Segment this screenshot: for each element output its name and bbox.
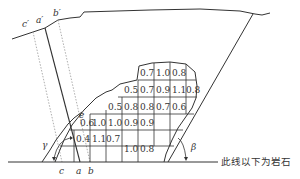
label-c: c <box>59 166 64 176</box>
beta-arc <box>178 138 186 158</box>
svg-text:1.0: 1.0 <box>92 118 107 128</box>
label-b: b <box>88 166 94 176</box>
svg-text:0.5: 0.5 <box>108 102 123 112</box>
rock-base-note: 此线以下为岩石 <box>221 156 291 167</box>
diagram-canvas: 0.7 1.0 0.8 0.5 0.7 0.9 1.1 0.8 0.5 0.8 … <box>0 0 300 179</box>
slip-line-c <box>33 32 62 162</box>
svg-text:0.8: 0.8 <box>140 144 155 154</box>
svg-text:0.8: 0.8 <box>140 102 155 112</box>
svg-text:1.0: 1.0 <box>108 118 123 128</box>
svg-text:0.8: 0.8 <box>172 68 187 78</box>
svg-text:0.7: 0.7 <box>140 85 155 95</box>
svg-text:0.6: 0.6 <box>172 102 187 112</box>
label-a-prime: a′ <box>36 15 43 25</box>
svg-text:0.7: 0.7 <box>140 68 155 78</box>
label-a: a <box>76 166 81 176</box>
label-e: e <box>79 110 84 120</box>
svg-text:0.8: 0.8 <box>186 85 201 95</box>
svg-text:1.0: 1.0 <box>124 144 139 154</box>
beta-arrow-icon <box>184 157 188 161</box>
angle-gamma-label: γ <box>42 140 48 150</box>
gamma-arc <box>54 138 70 158</box>
svg-text:0.5: 0.5 <box>124 85 139 95</box>
svg-text:1.1: 1.1 <box>92 134 106 144</box>
angle-beta-label: β <box>190 142 196 152</box>
label-c-prime: c′ <box>22 19 29 29</box>
svg-text:0.9: 0.9 <box>124 118 139 128</box>
svg-text:0.4: 0.4 <box>76 134 91 144</box>
svg-text:1.0: 1.0 <box>156 68 171 78</box>
svg-text:0.8: 0.8 <box>124 102 139 112</box>
svg-text:0.7: 0.7 <box>156 102 171 112</box>
svg-text:1.1: 1.1 <box>172 85 186 95</box>
svg-text:0.9: 0.9 <box>140 118 155 128</box>
ground-surface-line <box>12 9 270 39</box>
svg-text:0.9: 0.9 <box>156 85 171 95</box>
gamma-arrow-icon-2 <box>70 136 73 140</box>
label-b-prime: b′ <box>53 8 61 18</box>
svg-text:0.7: 0.7 <box>106 134 121 144</box>
